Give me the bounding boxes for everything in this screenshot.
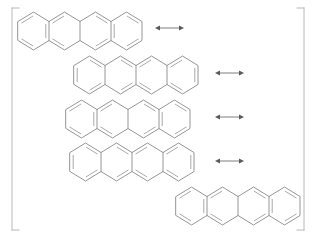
resonance-arrow-2 [215, 70, 244, 75]
tetracene-resonance-3 [66, 100, 190, 138]
double-bond-line [175, 127, 186, 134]
arrow-head-left-icon [215, 114, 220, 119]
double-bond-line [180, 214, 191, 221]
double-bond-line [171, 83, 182, 90]
double-bond-line [140, 60, 151, 67]
double-bond-line [127, 39, 138, 46]
double-bond-line [70, 127, 81, 134]
double-bond-line [285, 191, 296, 198]
arrow-head-left-icon [215, 70, 220, 75]
double-bond-line [171, 60, 182, 67]
tetracene-resonance-5 [176, 187, 300, 225]
resonance-arrow-3 [215, 114, 244, 119]
arrow-head-right-icon [179, 25, 184, 30]
molecule-scene [0, 0, 320, 237]
double-bond-line [86, 147, 97, 154]
double-bond-line [167, 170, 178, 177]
double-bond-line [127, 16, 138, 23]
resonance-arrow-1 [155, 25, 184, 30]
arrow-head-right-icon [239, 70, 244, 75]
double-bond-line [117, 147, 128, 154]
double-bond-line [70, 104, 81, 111]
double-bond-line [101, 104, 112, 111]
double-bond-line [90, 83, 101, 90]
arrow-head-right-icon [239, 158, 244, 163]
double-bond-line [140, 83, 151, 90]
double-bond-line [86, 170, 97, 177]
double-bond-line [53, 16, 64, 23]
double-bond-line [167, 147, 178, 154]
double-bond-line [180, 191, 191, 198]
double-bond-line [144, 104, 155, 111]
double-bond-line [136, 147, 147, 154]
double-bond-line [254, 214, 265, 221]
double-bond-line [121, 60, 132, 67]
bracket-right [297, 8, 304, 230]
double-bond-line [136, 170, 147, 177]
tetracene-resonance-1 [18, 12, 142, 50]
arrow-head-left-icon [215, 158, 220, 163]
arrow-head-left-icon [155, 25, 160, 30]
double-bond-line [96, 39, 107, 46]
double-bond-line [211, 191, 222, 198]
tetracene-resonance-2 [74, 56, 198, 94]
double-bond-line [285, 214, 296, 221]
double-bond-line [22, 16, 33, 23]
double-bond-line [254, 191, 265, 198]
resonance-arrow-4 [215, 158, 244, 163]
tetracene-resonance-4 [70, 143, 194, 181]
double-bond-line [144, 127, 155, 134]
resonance-diagram-canvas [0, 0, 320, 237]
double-bond-line [22, 39, 33, 46]
double-bond-line [90, 60, 101, 67]
double-bond-line [121, 83, 132, 90]
double-bond-line [117, 170, 128, 177]
double-bond-line [101, 127, 112, 134]
double-bond-line [53, 39, 64, 46]
double-bond-line [211, 214, 222, 221]
arrow-head-right-icon [239, 114, 244, 119]
bracket-left [12, 8, 19, 230]
double-bond-line [96, 16, 107, 23]
double-bond-line [175, 104, 186, 111]
